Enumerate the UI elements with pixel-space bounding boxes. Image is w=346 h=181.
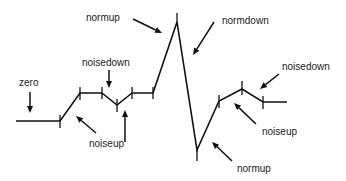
label-normup-bottom: normup — [237, 163, 271, 174]
arrow-zero-icon — [27, 92, 33, 113]
arrow-normdown-icon — [193, 22, 214, 55]
arrow-noisedown-left-icon — [106, 70, 112, 88]
waveform-line — [16, 22, 287, 150]
arrow-noiseup-left-icon — [76, 116, 96, 133]
label-normdown: normdown — [222, 15, 269, 26]
waveform-trace — [16, 22, 287, 150]
label-noiseup-left: noiseup — [89, 138, 124, 149]
waveform-diagram: normupnormdownnoisedownzeronoiseupnoised… — [0, 0, 346, 181]
arrow-noisedown-right-icon — [260, 74, 279, 89]
label-noisedown-right: noisedown — [282, 61, 330, 72]
label-noiseup-right: noiseup — [262, 126, 297, 137]
annotation-labels: normupnormdownnoisedownzeronoiseupnoised… — [19, 12, 330, 174]
arrow-normup-bottom-icon — [212, 142, 232, 161]
label-zero: zero — [19, 77, 39, 88]
label-noisedown-left: noisedown — [82, 57, 130, 68]
arrow-noiseup-right-icon — [234, 103, 256, 124]
label-normup-top: normup — [86, 12, 120, 23]
arrow-normup-top-icon — [133, 19, 162, 33]
